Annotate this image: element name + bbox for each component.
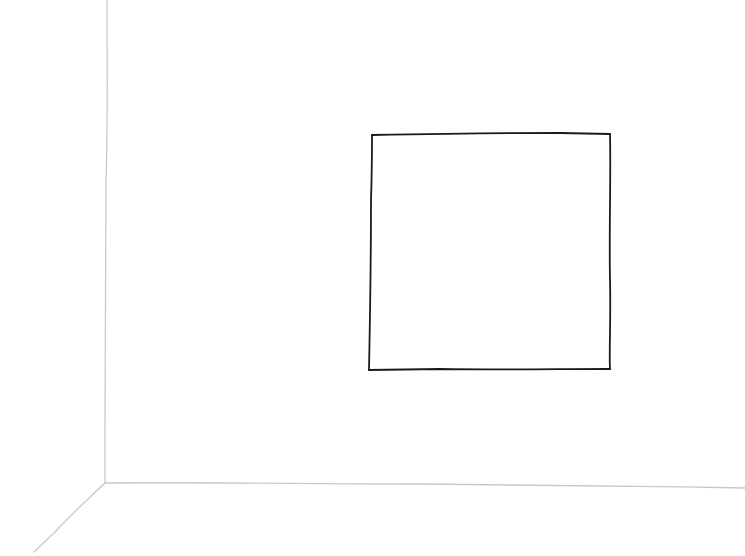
frame-left	[369, 135, 372, 370]
floor-wall-edge	[105, 483, 745, 488]
wall-vertical-edge	[105, 0, 107, 483]
room-sketch	[0, 0, 745, 556]
room-lines	[34, 0, 745, 552]
square-frame	[369, 133, 610, 370]
frame-right	[610, 134, 611, 369]
floor-diagonal	[34, 483, 105, 552]
frame-bottom	[369, 369, 610, 370]
frame-top	[372, 133, 610, 135]
